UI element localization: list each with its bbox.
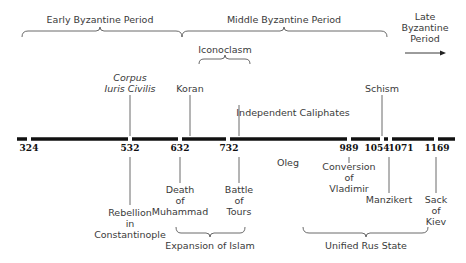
year-324: 324 (20, 143, 39, 153)
battle-of-tours-label: Battle of Tours (225, 184, 253, 217)
year-1054: 1054 (364, 143, 389, 153)
late-byzantine-label: Late Byzantine Period (401, 11, 448, 44)
iconoclasm-label: Iconoclasm (198, 44, 252, 55)
year-632: 632 (171, 143, 190, 153)
unified-rus-state-label: Unified Rus State (325, 240, 407, 251)
corpus-iuris-civilis-label: Corpus Iuris Civilis (104, 72, 155, 94)
late-period-arrow (405, 51, 446, 56)
sack-of-kiev-label: Sack of Kiev (425, 194, 448, 227)
year-989: 989 (340, 143, 359, 153)
schism-label: Schism (365, 83, 399, 94)
year-732: 732 (220, 143, 239, 153)
conversion-of-vladimir-label: Conversion of Vladimir (322, 161, 375, 194)
year-532: 532 (121, 143, 140, 153)
timeline-graphics (0, 0, 466, 263)
expansion-of-islam-label: Expansion of Islam (165, 240, 255, 251)
year-1071: 1071 (388, 143, 413, 153)
independent-caliphates-label: Independent Caliphates (236, 107, 349, 118)
death-of-muhammad-label: Death of Muhammad (152, 184, 208, 217)
oleg-label: Oleg (277, 157, 299, 168)
early-byzantine-label: Early Byzantine Period (47, 14, 154, 25)
manzikert-label: Manzikert (366, 194, 412, 205)
koran-label: Koran (176, 83, 203, 94)
year-1169: 1169 (424, 143, 449, 153)
middle-byzantine-label: Middle Byzantine Period (227, 14, 341, 25)
